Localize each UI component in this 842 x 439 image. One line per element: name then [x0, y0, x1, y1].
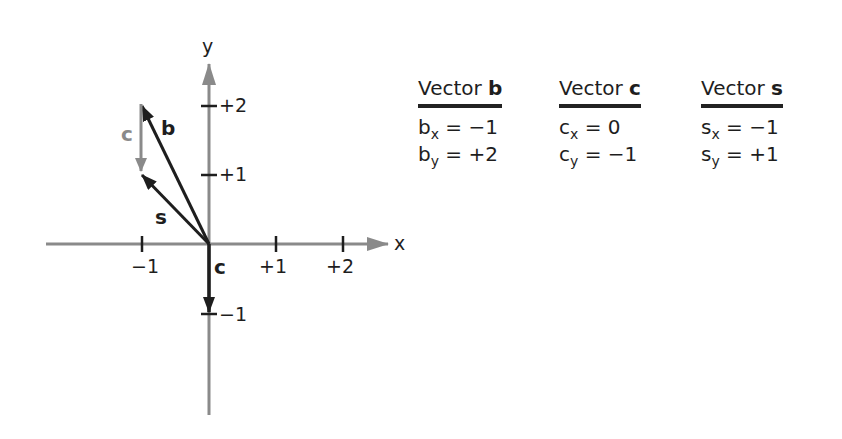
y-tick-label-pos1: +1 — [219, 163, 247, 185]
component-subscript: y — [711, 153, 719, 169]
component-row-cx: cx = 0 — [559, 114, 641, 141]
table-column-s: Vector s sx = −1 sy = +1 — [701, 76, 783, 168]
vector-c-label: c — [214, 255, 226, 279]
column-header-vector-name: c — [629, 76, 641, 100]
x-axis-label: x — [394, 232, 405, 254]
vector-diagram: −1 +1 +2 x +2 +1 −1 y b s c c — [0, 0, 420, 439]
vector-s-arrow — [142, 175, 209, 244]
y-axis: +2 +1 −1 y — [201, 35, 247, 415]
component-value: = −1 — [720, 115, 779, 139]
column-header-c: Vector c — [559, 76, 641, 108]
component-subscript: x — [711, 126, 719, 142]
component-value: = −1 — [439, 115, 498, 139]
component-value: = 0 — [578, 115, 620, 139]
component-value: = +1 — [720, 142, 779, 166]
component-row-sx: sx = −1 — [701, 114, 783, 141]
component-row-cy: cy = −1 — [559, 141, 641, 168]
column-header-prefix: Vector — [418, 76, 488, 100]
column-header-vector-name: s — [771, 76, 783, 100]
y-tick-label-neg1: −1 — [219, 303, 247, 325]
component-subscript: x — [431, 126, 439, 142]
column-header-prefix: Vector — [559, 76, 629, 100]
column-header-s: Vector s — [701, 76, 783, 108]
column-header-prefix: Vector — [701, 76, 771, 100]
component-symbol: b — [418, 142, 431, 166]
component-subscript: y — [431, 153, 439, 169]
column-header-b: Vector b — [418, 76, 502, 108]
component-symbol: s — [701, 142, 711, 166]
component-row-sy: sy = +1 — [701, 141, 783, 168]
table-column-b: Vector b bx = −1 by = +2 — [418, 76, 502, 168]
component-value: = +2 — [439, 142, 498, 166]
vector-s-label: s — [155, 205, 167, 229]
component-symbol: c — [559, 115, 570, 139]
vector-b-label: b — [161, 116, 175, 140]
table-column-c: Vector c cx = 0 cy = −1 — [559, 76, 641, 168]
component-symbol: c — [559, 142, 570, 166]
component-row-by: by = +2 — [418, 141, 502, 168]
x-tick-label-pos1: +1 — [259, 255, 287, 277]
x-tick-label-neg1: −1 — [131, 255, 159, 277]
y-axis-label: y — [202, 35, 213, 57]
component-row-bx: bx = −1 — [418, 114, 502, 141]
column-header-vector-name: b — [488, 76, 502, 100]
component-value: = −1 — [578, 142, 637, 166]
component-symbol: s — [701, 115, 711, 139]
x-tick-label-pos2: +2 — [326, 255, 354, 277]
vector-b-arrow — [142, 106, 209, 244]
y-tick-label-pos2: +2 — [219, 94, 247, 116]
vector-c-shifted-label: c — [121, 122, 133, 146]
component-symbol: b — [418, 115, 431, 139]
